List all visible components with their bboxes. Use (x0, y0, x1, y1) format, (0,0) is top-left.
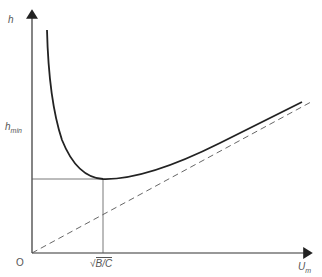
chart-plot (0, 0, 322, 277)
asymptote-line (32, 102, 311, 253)
chart: h hmin O √B/C Um (0, 0, 322, 277)
y-axis-label: h (8, 14, 14, 25)
h-curve (47, 30, 302, 179)
origin-label: O (16, 257, 24, 268)
sqrt-bc-label: √B/C (90, 258, 112, 269)
x-axis-label: Um (298, 261, 311, 274)
sqrt-bc-radicand: B/C (96, 257, 113, 269)
h-min-label: hmin (5, 121, 22, 134)
